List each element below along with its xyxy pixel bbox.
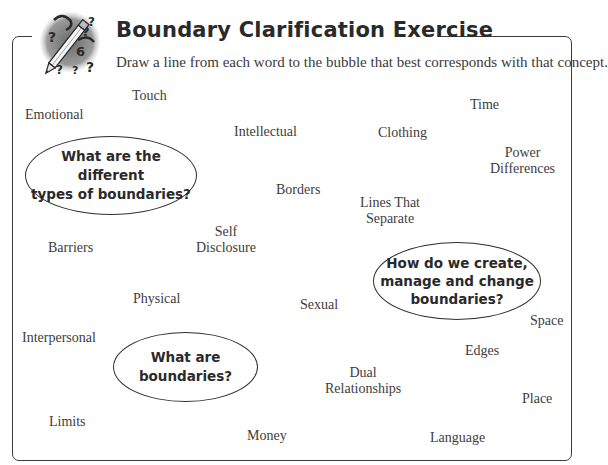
bubble-line: What are [139, 348, 232, 367]
bubble-line: How do we create, [380, 254, 534, 272]
svg-text:?: ? [72, 64, 78, 76]
svg-text:?: ? [48, 29, 56, 45]
bubble-line: manage and change [380, 272, 534, 290]
bubble-what-are-boundaries[interactable]: What are boundaries? [113, 332, 258, 402]
bubble-line: boundaries? [380, 290, 534, 308]
word-lines-that-separate[interactable]: Lines That Separate [360, 195, 420, 227]
svg-text:?: ? [86, 59, 94, 75]
word-touch[interactable]: Touch [132, 88, 167, 104]
bubble-line: What are the different [26, 147, 196, 185]
pencil-question-marks-icon: ? ? ? ? ? ? 6 [36, 4, 104, 76]
word-sexual[interactable]: Sexual [300, 297, 338, 313]
instructions-text: Draw a line from each word to the bubble… [116, 54, 608, 71]
word-language[interactable]: Language [430, 430, 485, 446]
word-clothing[interactable]: Clothing [378, 125, 427, 141]
svg-text:6: 6 [76, 44, 85, 59]
svg-text:?: ? [88, 15, 95, 29]
word-borders[interactable]: Borders [276, 182, 320, 198]
word-emotional[interactable]: Emotional [25, 107, 83, 123]
page-title: Boundary Clarification Exercise [116, 18, 493, 42]
word-space[interactable]: Space [530, 313, 563, 329]
bubble-types-of-boundaries[interactable]: What are the different types of boundari… [25, 136, 197, 215]
word-dual-relationships[interactable]: Dual Relationships [325, 365, 401, 397]
word-time[interactable]: Time [470, 97, 499, 113]
bubble-line: boundaries? [139, 367, 232, 386]
word-edges[interactable]: Edges [465, 343, 499, 359]
word-barriers[interactable]: Barriers [48, 240, 93, 256]
word-money[interactable]: Money [247, 428, 287, 444]
word-place[interactable]: Place [522, 391, 552, 407]
word-interpersonal[interactable]: Interpersonal [22, 330, 96, 346]
word-power-differences[interactable]: Power Differences [490, 145, 555, 177]
bubble-create-manage-change[interactable]: How do we create, manage and change boun… [373, 242, 541, 320]
word-self-disclosure[interactable]: Self Disclosure [196, 224, 256, 256]
bubble-line: types of boundaries? [26, 185, 196, 204]
word-physical[interactable]: Physical [133, 291, 180, 307]
word-intellectual[interactable]: Intellectual [234, 124, 297, 140]
word-limits[interactable]: Limits [49, 414, 86, 430]
